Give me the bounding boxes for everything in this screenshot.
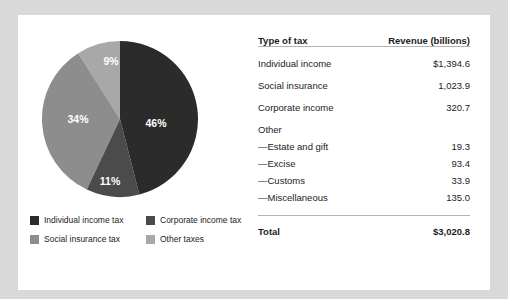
pie-chart: 46% 34% 9% 11% (40, 39, 200, 199)
row-value: $1,394.6 (360, 47, 470, 70)
legend-swatch-icon (30, 216, 39, 225)
table-row: —Customs 33.9 (258, 169, 470, 186)
row-label: Social insurance (258, 69, 360, 91)
row-label: Other (258, 113, 360, 135)
table-total-row: Total $3,020.8 (258, 216, 470, 238)
row-value (360, 113, 470, 135)
table-row: Corporate income 320.7 (258, 91, 470, 113)
row-label: —Estate and gift (258, 135, 360, 152)
pie-chart-panel: 46% 34% 9% 11% Individual income tax Cor… (18, 15, 246, 290)
column-header-type-of-tax: Type of tax (258, 35, 360, 47)
legend-label: Corporate income tax (160, 216, 241, 225)
table-row-group-other: Other (258, 113, 470, 135)
row-value: 1,023.9 (360, 69, 470, 91)
total-label: Total (258, 216, 360, 238)
table-foot: Total $3,020.8 (258, 203, 470, 237)
chart-legend: Individual income tax Corporate income t… (30, 211, 246, 249)
legend-item-social-insurance-tax: Social insurance tax (30, 235, 146, 244)
row-value: 135.0 (360, 186, 470, 203)
legend-item-individual-income-tax: Individual income tax (30, 216, 146, 225)
table-row: —Excise 93.4 (258, 152, 470, 169)
table-row: —Miscellaneous 135.0 (258, 186, 470, 203)
tax-revenue-table-panel: Type of tax Revenue (billions) Individua… (258, 35, 470, 237)
table-header-row: Type of tax Revenue (billions) (258, 35, 470, 47)
pie-chart-svg: 46% 34% 9% 11% (40, 39, 200, 199)
row-label: —Customs (258, 169, 360, 186)
legend-label: Other taxes (160, 235, 204, 244)
legend-item-corporate-income-tax: Corporate income tax (146, 216, 246, 225)
column-header-revenue: Revenue (billions) (360, 35, 470, 47)
table-body: Individual income $1,394.6 Social insura… (258, 47, 470, 204)
tax-revenue-table: Type of tax Revenue (billions) Individua… (258, 35, 470, 237)
row-value: 33.9 (360, 169, 470, 186)
row-label: —Miscellaneous (258, 186, 360, 203)
total-value: $3,020.8 (360, 216, 470, 238)
pie-label-other-taxes: 9% (103, 55, 119, 67)
table-row: —Estate and gift 19.3 (258, 135, 470, 152)
row-label: —Excise (258, 152, 360, 169)
legend-swatch-icon (30, 235, 39, 244)
row-label: Corporate income (258, 91, 360, 113)
legend-label: Social insurance tax (44, 235, 120, 244)
content-card: 46% 34% 9% 11% Individual income tax Cor… (18, 15, 490, 290)
legend-swatch-icon (146, 235, 155, 244)
table-head: Type of tax Revenue (billions) (258, 35, 470, 47)
row-value: 19.3 (360, 135, 470, 152)
table-spacer (258, 203, 470, 216)
legend-item-other-taxes: Other taxes (146, 235, 246, 244)
pie-label-individual-income: 46% (145, 117, 167, 129)
pie-label-social-insurance: 34% (67, 113, 89, 125)
row-label: Individual income (258, 47, 360, 70)
legend-swatch-icon (146, 216, 155, 225)
row-value: 93.4 (360, 152, 470, 169)
row-value: 320.7 (360, 91, 470, 113)
legend-label: Individual income tax (44, 216, 123, 225)
table-row: Social insurance 1,023.9 (258, 69, 470, 91)
pie-label-corporate-income: 11% (100, 175, 121, 187)
table-row: Individual income $1,394.6 (258, 47, 470, 70)
